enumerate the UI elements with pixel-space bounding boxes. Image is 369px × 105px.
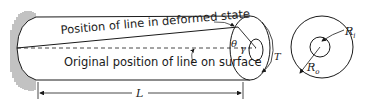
deformed-line-label: Position of line in deformed state (60, 6, 251, 37)
inner-radius-label: Ri (344, 25, 356, 40)
inner-radius-leader (322, 30, 344, 41)
theta-label: θ (231, 38, 237, 49)
outer-radius-label: Ro (306, 61, 320, 76)
gamma-label: γ (240, 43, 246, 54)
torque-label: T (274, 51, 282, 62)
cross-section (291, 16, 353, 78)
outer-circle (291, 16, 353, 78)
original-line-label: Original position of line on surface (64, 55, 262, 69)
length-label: L (135, 87, 143, 100)
shaft-diagram: Position of line in deformed state Origi… (0, 0, 369, 105)
